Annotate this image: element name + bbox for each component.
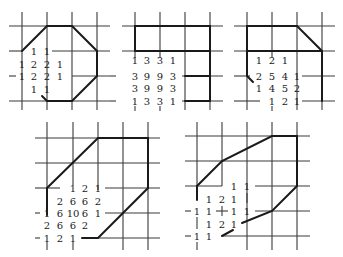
- value: 1: [57, 59, 63, 70]
- value: 1: [231, 181, 237, 192]
- value: 1: [132, 96, 138, 107]
- value: 9: [144, 71, 150, 82]
- value: 1: [256, 83, 262, 94]
- panel-4-values: 1 2 1 2 6 6 2 1 6 10 6 1 2 6 6 2 1 2 1: [44, 183, 101, 244]
- value: 1: [19, 59, 25, 70]
- value: 1: [206, 194, 212, 205]
- value: 3: [170, 71, 176, 82]
- value: 1: [206, 231, 212, 242]
- value: 1: [194, 231, 200, 242]
- value: 2: [31, 71, 37, 82]
- panel-2-square-stencil: 1 3 3 1 3 9 9 3 3 9 9 3 1 3 3 1: [110, 12, 223, 111]
- value: 1: [95, 208, 101, 219]
- value: 2: [95, 196, 101, 207]
- value: 1: [294, 96, 300, 107]
- value: 3: [132, 83, 138, 94]
- value: 1: [132, 55, 138, 66]
- value: 1: [231, 194, 237, 205]
- value: 2: [57, 233, 63, 244]
- value: 2: [219, 219, 225, 230]
- panel-4-hexagon-stencil: 1 2 1 2 6 6 2 1 6 10 6 1 2 6 6 2 1 2 1: [35, 122, 160, 250]
- value: 3: [144, 96, 150, 107]
- value: 1: [44, 84, 50, 95]
- value: 6: [82, 196, 88, 207]
- value: 1: [44, 46, 50, 57]
- value: 9: [144, 83, 150, 94]
- value: 1: [206, 219, 212, 230]
- value: 5: [282, 83, 288, 94]
- value: 1: [70, 233, 76, 244]
- value: 2: [57, 196, 63, 207]
- value: 2: [256, 71, 262, 82]
- value: 1: [170, 55, 176, 66]
- panel-2-values: 1 3 3 1 3 9 9 3 3 9 9 3 1 3 3 1: [132, 55, 176, 107]
- value: 1: [44, 233, 50, 244]
- value: 1: [70, 183, 76, 194]
- value: 2: [31, 59, 37, 70]
- value: 2: [219, 194, 225, 205]
- stencil-diagram-figure: 1 1 1 2 2 1 1 2 2 1 1 1: [0, 0, 343, 257]
- value: 9: [157, 71, 163, 82]
- value: 5: [269, 71, 275, 82]
- value: 4: [282, 71, 288, 82]
- value: 1: [57, 71, 63, 82]
- value: 3: [157, 96, 163, 107]
- value: 1: [256, 55, 262, 66]
- panel-1-octagon-stencil: 1 1 1 2 2 1 1 2 2 1 1 1: [9, 12, 110, 110]
- value: 1: [269, 96, 275, 107]
- value: 3: [144, 55, 150, 66]
- value: 1: [231, 206, 237, 217]
- value: 2: [269, 55, 275, 66]
- value: 1: [244, 181, 250, 192]
- value: 2: [44, 220, 50, 231]
- value: 6: [70, 220, 76, 231]
- value: 9: [157, 83, 163, 94]
- value: 1: [231, 219, 237, 230]
- value: 3: [170, 83, 176, 94]
- value: 6: [57, 208, 63, 219]
- value: 1: [294, 71, 300, 82]
- value: 1: [170, 96, 176, 107]
- value: 1: [206, 206, 212, 217]
- value: 3: [132, 71, 138, 82]
- value: 2: [82, 183, 88, 194]
- value: 1: [44, 208, 50, 219]
- panel-3-values: 1 2 1 2 5 4 1 1 4 5 2 1 2 1: [256, 55, 300, 107]
- value: 2: [294, 83, 300, 94]
- value: 6: [70, 196, 76, 207]
- panel-5-skewed-hexagon-stencil: 1 1 1 2 1 1 1 1 1 1 2 1 1 1: [185, 122, 310, 250]
- value: 3: [157, 55, 163, 66]
- value: 6: [57, 220, 63, 231]
- value: 1: [19, 71, 25, 82]
- panel-3-corner-stencil: 1 2 1 2 5 4 1 1 4 5 2 1 2 1: [234, 12, 335, 111]
- value: 1: [194, 206, 200, 217]
- value: 4: [269, 83, 275, 94]
- value: 2: [282, 96, 288, 107]
- value: 6: [82, 208, 88, 219]
- value: 2: [44, 71, 50, 82]
- value: 1: [244, 206, 250, 217]
- value: 10: [67, 208, 80, 219]
- value: 1: [31, 46, 37, 57]
- panel-1-values: 1 1 1 2 2 1 1 2 2 1 1 1: [19, 46, 63, 95]
- value: 2: [44, 59, 50, 70]
- value: 2: [82, 220, 88, 231]
- value: 1: [282, 55, 288, 66]
- value: 1: [95, 183, 101, 194]
- value: 1: [31, 84, 37, 95]
